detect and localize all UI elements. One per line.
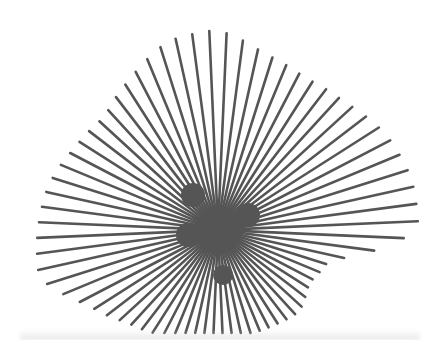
starburst-image [0, 0, 433, 340]
ray [223, 65, 286, 217]
floor-shadow [20, 330, 420, 340]
hub [181, 183, 205, 207]
hub [176, 223, 200, 247]
starburst-sculpture [0, 0, 433, 340]
hub [236, 203, 260, 227]
hub [196, 208, 240, 252]
hub [213, 265, 233, 285]
